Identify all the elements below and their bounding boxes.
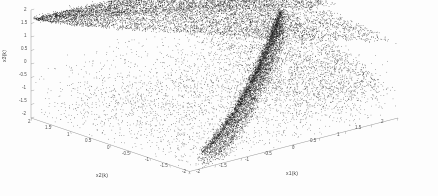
x2-tick-label: 1.5 [45, 125, 51, 130]
x1-tick-label: -1.5 [219, 163, 227, 168]
z-tick-label: 0.5 [21, 46, 27, 51]
x2-tick-label: -0.5 [122, 151, 130, 156]
x1-tick-label: -1 [245, 157, 249, 162]
x2-tick-label: 1 [67, 132, 70, 137]
z-tick-label: 1.5 [21, 20, 27, 25]
x1-tick-label: 1 [337, 132, 340, 137]
z-tick-label: 2 [24, 7, 27, 12]
figure-3d-scatter: x3(k) x2(k) x1(k) 21.510.50-0.5-1-1.5-22… [0, 0, 438, 196]
x2-tick-label: -1.5 [160, 163, 168, 168]
z-tick-label: 1 [24, 33, 27, 38]
z-axis-label: x3(k) [1, 50, 7, 62]
x1-axis-label: x1(k) [286, 170, 298, 176]
z-tick-label: -1 [22, 85, 26, 90]
x2-tick-label: 0 [107, 145, 110, 150]
x1-tick-label: 0 [292, 145, 295, 150]
x2-tick-label: 2 [28, 119, 31, 124]
x1-tick-label: -2 [196, 169, 200, 174]
x1-tick-label: 0.5 [310, 138, 316, 143]
z-tick-label: -2 [22, 111, 26, 116]
x1-tick-label: 1.5 [355, 125, 361, 130]
x2-tick-label: -2 [182, 169, 186, 174]
x1-tick-label: 2 [381, 119, 384, 124]
z-tick-label: -1.5 [19, 98, 27, 103]
x2-tick-label: -1 [145, 157, 149, 162]
x1-tick-label: -0.5 [264, 151, 272, 156]
z-tick-label: 0 [24, 59, 27, 64]
x2-tick-label: 0.5 [85, 138, 91, 143]
z-tick-label: -0.5 [19, 72, 27, 77]
x2-axis-label: x2(k) [96, 172, 108, 178]
